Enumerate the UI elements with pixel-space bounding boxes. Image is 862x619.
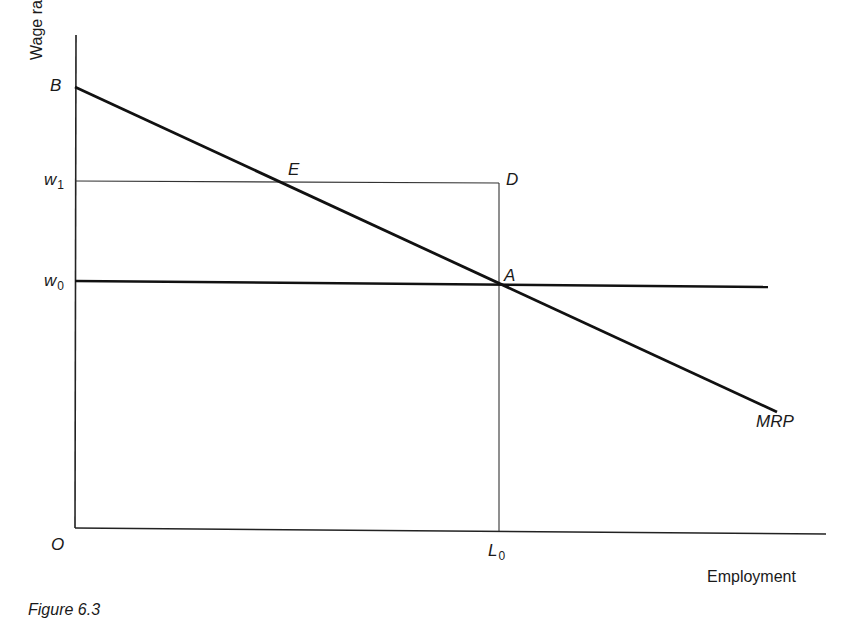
w1-guide-line [75,181,499,183]
l0-base: L [488,541,497,560]
w0-line [75,281,768,287]
x-axis [75,528,826,534]
point-b-label: B [50,76,61,96]
w0-base: w [44,271,56,290]
origin-label: O [51,535,64,555]
l0-label: L0 [488,541,505,561]
mrp-curve-label: MRP [756,412,794,432]
w0-label: w0 [44,271,64,291]
mrp-curve [75,87,777,412]
figure-caption: Figure 6.3 [28,601,100,619]
point-a-label: A [504,266,515,286]
point-d-label: D [506,170,518,190]
l0-sub: 0 [498,549,505,563]
x-axis-label: Employment [707,568,796,586]
y-axis-label: Wage rate [28,0,46,60]
w1-sub: 1 [57,178,64,192]
w1-label: w1 [44,170,64,190]
w0-sub: 0 [57,279,64,293]
point-e-label: E [288,160,299,180]
w1-base: w [44,170,56,189]
